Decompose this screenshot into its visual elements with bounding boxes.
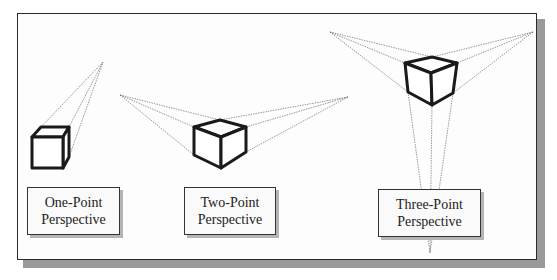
label-line1: Two-Point <box>201 194 260 211</box>
label-two-point: Two-Point Perspective <box>184 187 276 235</box>
three-point-cube <box>405 57 457 105</box>
label-three-point: Three-Point Perspective <box>378 189 481 237</box>
label-line1: One-Point <box>45 194 103 211</box>
label-line2: Perspective <box>397 213 462 230</box>
two-point-cube <box>194 120 246 168</box>
label-one-point: One-Point Perspective <box>27 187 120 235</box>
label-box: Three-Point Perspective <box>378 189 481 237</box>
label-line1: Three-Point <box>396 196 463 213</box>
label-line2: Perspective <box>41 211 106 228</box>
label-box: One-Point Perspective <box>27 187 120 235</box>
label-line2: Perspective <box>198 211 263 228</box>
label-box: Two-Point Perspective <box>184 187 276 235</box>
one-point-cube <box>32 127 69 168</box>
